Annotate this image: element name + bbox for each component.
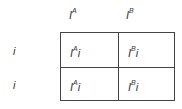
column-header-2: IB [126,8,134,21]
cell-rest: i [136,81,138,93]
cell-2-1: IAi [70,80,80,93]
cell-1-2: IBi [128,46,138,59]
allele-sup: B [129,7,134,14]
cell-2-2: IBi [128,80,138,93]
cell-sup: A [73,45,78,52]
cell-rest: i [136,47,138,59]
column-header-1: IA [69,8,77,21]
punnett-grid: IAi IBi IAi IBi [60,32,175,101]
row-header-2: i [13,80,15,91]
row-header-1: i [13,46,15,57]
grid-divider-horizontal [61,67,174,68]
cell-sup: B [131,45,136,52]
cell-1-1: IAi [70,46,80,59]
cell-rest: i [78,81,80,93]
cell-sup: B [131,79,136,86]
cell-sup: A [73,79,78,86]
cell-rest: i [78,47,80,59]
allele-sup: A [72,7,77,14]
allele-base: i [13,45,15,57]
allele-base: i [13,79,15,91]
